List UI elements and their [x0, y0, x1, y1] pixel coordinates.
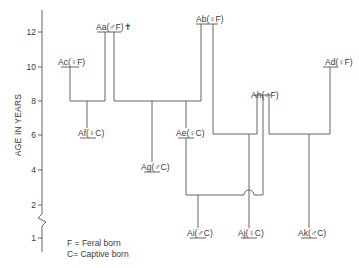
tick-1: 1: [31, 233, 36, 243]
label-ak: Ak(♂C): [298, 228, 326, 238]
label-ad: Ad(♀F): [325, 57, 353, 67]
label-aj: Aj(♀C): [238, 228, 264, 238]
label-af: Af(♀C): [78, 128, 104, 138]
legend: F = Feral born C= Captive born: [67, 238, 129, 259]
label-ab: Ab(♀F): [196, 14, 224, 24]
tick-4: 4: [31, 165, 36, 175]
tick-2: 2: [31, 200, 36, 210]
y-axis: 12 10 8 6 4 2 1 AGE IN YEARS: [13, 10, 46, 252]
tick-10: 10: [27, 62, 37, 72]
legend-captive: C= Captive born: [67, 249, 129, 259]
label-ae: Ae(♀C): [176, 128, 205, 138]
label-ac: Ac(♀F): [58, 57, 85, 67]
label-aa: Aa(♂F)✝: [96, 22, 132, 32]
label-ai: Ai(♂C): [187, 228, 213, 238]
tick-8: 8: [31, 96, 36, 106]
tick-12: 12: [27, 27, 37, 37]
axis-break-icon: [38, 214, 46, 226]
pedigree-diagram: 12 10 8 6 4 2 1 AGE IN YEARS: [0, 0, 359, 268]
pedigree-lines: [70, 24, 330, 228]
legend-feral: F = Feral born: [67, 238, 121, 248]
axis-title: AGE IN YEARS: [13, 94, 23, 156]
label-ag: Ag(♂C): [141, 162, 170, 172]
tick-6: 6: [31, 130, 36, 140]
